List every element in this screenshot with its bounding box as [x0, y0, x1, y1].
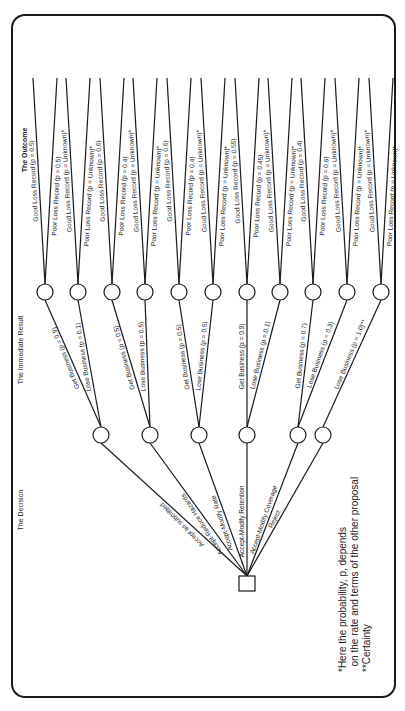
outcome-label-good: Good Loss Record (p = 0.55) [229, 138, 242, 224]
result-label: Lose Business (p = 1.0)** [333, 318, 369, 391]
decision-edge [247, 443, 323, 576]
decision-node-square [239, 576, 255, 591]
decision-label: Accept-Modify Retention [238, 485, 246, 557]
result-label: Lose Business (p = 0.1) [249, 320, 272, 389]
header-immediate-result: The Immediate Result [17, 316, 24, 385]
result-edge [323, 300, 381, 427]
chance-node-outcome [137, 284, 153, 300]
chance-node-outcome [305, 284, 321, 300]
chance-node-outcome [104, 284, 120, 300]
chance-node-result [93, 427, 109, 443]
chance-node-outcome [205, 284, 221, 300]
result-edge [45, 300, 101, 427]
decision-edge [101, 443, 247, 576]
footnote-line-1: *Here the probability, p, depends [337, 527, 348, 672]
decision-edge [247, 443, 298, 576]
result-label: Get Business (p = 0.5) [175, 324, 192, 390]
footnote-line-2: on the rate and terms of the other propo… [349, 477, 360, 672]
header-decision: The Decision [17, 489, 24, 530]
chance-node-result [290, 427, 306, 443]
chance-node-result [239, 427, 255, 443]
chance-node-outcome [339, 284, 355, 300]
chance-node-result [315, 427, 331, 443]
outcome-label-good: Good Loss Record (p = 0.6) [161, 140, 174, 222]
chance-node-outcome [70, 284, 86, 300]
decision-tree: The Outcome The Immediate Result The Dec… [0, 0, 405, 711]
header-outcome: The Outcome [21, 128, 28, 173]
chance-node-result [191, 427, 207, 443]
result-edge [145, 300, 150, 427]
footnote-line-3: **Certainty [361, 624, 372, 672]
chance-node-outcome [373, 284, 389, 300]
chance-node-outcome [171, 284, 187, 300]
chance-node-outcome [37, 284, 53, 300]
result-edge [247, 300, 280, 427]
outcome-label-good: Good Loss Record (p = 0.5) [27, 140, 40, 222]
result-label: Get Business (p = 0.5) [112, 325, 137, 391]
outcome-label-good: Good Loss Record (p = 0.6) [94, 140, 107, 222]
chance-node-outcome [272, 284, 288, 300]
chance-node-outcome [239, 284, 255, 300]
result-label: Get Business (p = 0.9) [238, 323, 246, 389]
chance-node-result [142, 427, 158, 443]
outcome-label-good: Good Loss Record (p = 0.4) [295, 140, 308, 222]
